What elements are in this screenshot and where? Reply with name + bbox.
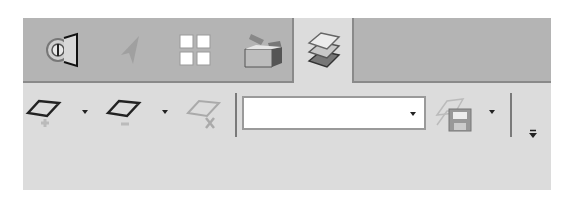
overflow-chevron-icon	[528, 129, 538, 139]
open-box-icon	[242, 31, 284, 69]
save-layers-dropdown-arrow[interactable]	[489, 110, 495, 114]
layers-panel	[23, 18, 551, 190]
tab-connect[interactable]	[35, 18, 89, 81]
add-layer-icon	[25, 91, 69, 131]
add-layer-button[interactable]	[25, 91, 69, 131]
remove-layer-button[interactable]	[105, 91, 149, 131]
remove-layer-icon	[105, 91, 149, 131]
toolbar-separator	[510, 93, 512, 137]
layer-combo[interactable]	[242, 96, 426, 130]
toolbar-separator	[235, 93, 237, 137]
save-layers-button[interactable]	[433, 91, 477, 135]
tab-box[interactable]	[233, 18, 293, 81]
connector-icon	[44, 30, 80, 70]
tab-strip	[23, 18, 551, 83]
cursor-arrow-icon	[115, 33, 145, 67]
delete-layer-button[interactable]	[185, 91, 229, 131]
layer-toolbar	[23, 83, 551, 190]
add-layer-dropdown-arrow[interactable]	[82, 110, 88, 114]
tab-grid[interactable]	[171, 18, 219, 81]
layers-icon	[303, 31, 343, 71]
toolbar-overflow-button[interactable]	[528, 125, 538, 143]
grid-icon	[178, 33, 212, 67]
layer-combo-input[interactable]	[244, 98, 412, 126]
save-layers-icon	[433, 91, 477, 135]
delete-layer-icon	[185, 91, 229, 131]
layer-combo-dropdown-arrow[interactable]	[410, 112, 416, 116]
remove-layer-dropdown-arrow[interactable]	[162, 110, 168, 114]
tab-layers[interactable]	[292, 18, 354, 83]
tab-cursor[interactable]	[105, 18, 155, 81]
